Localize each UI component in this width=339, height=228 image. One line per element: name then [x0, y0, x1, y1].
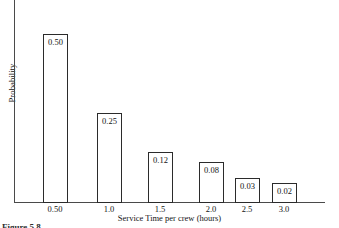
- y-axis-label: Probability: [7, 43, 17, 123]
- bar-1: 0.25: [97, 113, 122, 203]
- figure-caption: Figure 5.8: [2, 222, 41, 228]
- bar-value-2: 0.12: [149, 155, 172, 165]
- y-axis-line: [14, 0, 15, 202]
- x-axis-label: Service Time per crew (hours): [14, 213, 325, 223]
- bar-value-0: 0.50: [44, 37, 67, 47]
- bar-2: 0.12: [148, 152, 173, 203]
- bar-3: 0.08: [199, 162, 224, 203]
- bar-value-3: 0.08: [200, 165, 223, 175]
- figure-bar-chart: Probability 0.50 0.25 0.12 0.08 0.03 0.0…: [0, 0, 339, 228]
- bar-value-5: 0.02: [273, 186, 296, 196]
- bar-value-4: 0.03: [236, 181, 259, 191]
- bar-5: 0.02: [272, 183, 297, 203]
- bar-0: 0.50: [43, 34, 68, 203]
- bar-4: 0.03: [235, 178, 260, 203]
- bar-value-1: 0.25: [98, 116, 121, 126]
